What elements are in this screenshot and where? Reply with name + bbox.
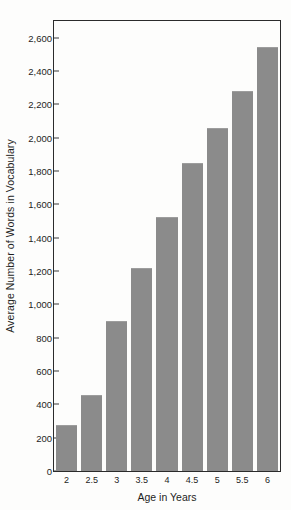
y-tick-label: 1,000 (16, 299, 52, 310)
bar (56, 425, 77, 471)
y-tick-label: 2,400 (16, 66, 52, 77)
x-tick-label: 6 (265, 475, 270, 485)
y-tick-label: 1,800 (16, 166, 52, 177)
y-tick-label: 2,000 (16, 132, 52, 143)
x-tick-label: 5.5 (236, 475, 249, 485)
bar (81, 395, 102, 471)
bar (156, 217, 177, 471)
x-axis-title: Age in Years (53, 491, 281, 503)
x-tick-label: 4.5 (186, 475, 199, 485)
y-tick-label: 200 (16, 432, 52, 443)
y-tick-label: 2,200 (16, 99, 52, 110)
y-tick-label: 800 (16, 332, 52, 343)
bar-chart-figure: Average Number of Words in Vocabulary 02… (0, 0, 291, 510)
bar (257, 47, 278, 471)
y-tick-label: 600 (16, 366, 52, 377)
y-axis-tick-labels: 02004006008001,0001,2001,4001,6001,8002,… (16, 0, 52, 510)
x-tick-label: 5 (215, 475, 220, 485)
y-tick-label: 2,600 (16, 32, 52, 43)
y-tick-label: 400 (16, 399, 52, 410)
y-tick-label: 1,400 (16, 232, 52, 243)
x-tick-label: 2.5 (85, 475, 98, 485)
bars-container (54, 21, 280, 471)
x-tick-label: 4 (164, 475, 169, 485)
y-axis-title-text: Average Number of Words in Vocabulary (4, 139, 16, 333)
y-tick-label: 1,600 (16, 199, 52, 210)
y-tick-label: 1,200 (16, 266, 52, 277)
y-tick-label: 0 (16, 466, 52, 477)
bar (106, 321, 127, 471)
bar (131, 268, 152, 471)
bar (232, 91, 253, 471)
x-tick-label: 2 (64, 475, 69, 485)
x-axis-tick-labels: 22.533.544.555.56 (54, 475, 280, 491)
x-tick-label: 3.5 (136, 475, 149, 485)
x-tick-label: 3 (114, 475, 119, 485)
bar (182, 163, 203, 472)
bar (207, 128, 228, 471)
